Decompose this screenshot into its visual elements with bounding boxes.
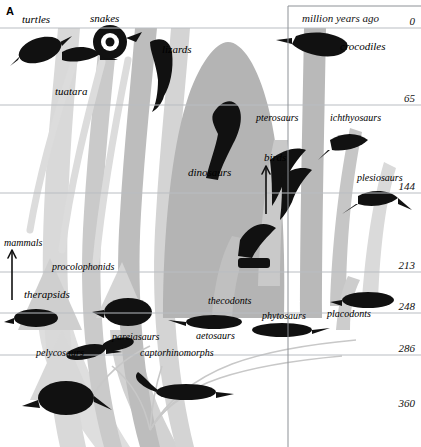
taxon-label-pelycosaurs: pelycosaurs bbox=[36, 348, 84, 358]
taxon-label-lizards: lizards bbox=[162, 44, 192, 55]
taxon-label-birds: birds bbox=[264, 152, 286, 163]
axis-tick-360: 360 bbox=[399, 398, 416, 409]
taxon-label-plesiosaurs: plesiosaurs bbox=[357, 173, 403, 183]
taxon-label-ichthyosaurs: ichthyosaurs bbox=[330, 113, 381, 123]
taxon-label-dinosaurs: dinosaurs bbox=[188, 167, 231, 178]
taxon-label-phytosaurs: phytosaurs bbox=[262, 311, 306, 321]
phylogeny-figure: A million years ago 065144213248286360 t… bbox=[0, 0, 421, 447]
axis-tick-65: 65 bbox=[404, 93, 415, 104]
taxon-label-pterosaurs: pterosaurs bbox=[256, 113, 298, 123]
panel-label: A bbox=[6, 5, 14, 17]
taxon-label-thecodonts: thecodonts bbox=[208, 296, 251, 306]
phylogeny-canvas bbox=[0, 0, 421, 447]
axis-tick-248: 248 bbox=[399, 301, 416, 312]
taxon-label-tuatara: tuatara bbox=[55, 86, 87, 97]
taxon-label-snakes: snakes bbox=[90, 13, 119, 24]
taxon-label-therapsids: therapsids bbox=[24, 289, 70, 300]
taxon-label-captorhinomorphs: captorhinomorphs bbox=[140, 348, 214, 358]
taxon-label-pareiasaurs: pareiasaurs bbox=[112, 332, 159, 342]
axis-tick-0: 0 bbox=[410, 16, 416, 27]
taxon-label-crocodiles: crocodiles bbox=[340, 41, 385, 52]
taxon-label-aetosaurs: aetosaurs bbox=[196, 331, 235, 341]
taxon-label-procolophonids: procolophonids bbox=[52, 262, 114, 272]
taxon-label-mammals: mammals bbox=[4, 238, 42, 248]
axis-title: million years ago bbox=[302, 12, 379, 24]
axis-tick-286: 286 bbox=[399, 343, 416, 354]
taxon-label-placodonts: placodonts bbox=[327, 309, 371, 319]
axis-tick-213: 213 bbox=[399, 260, 416, 271]
taxon-label-turtles: turtles bbox=[22, 14, 50, 25]
